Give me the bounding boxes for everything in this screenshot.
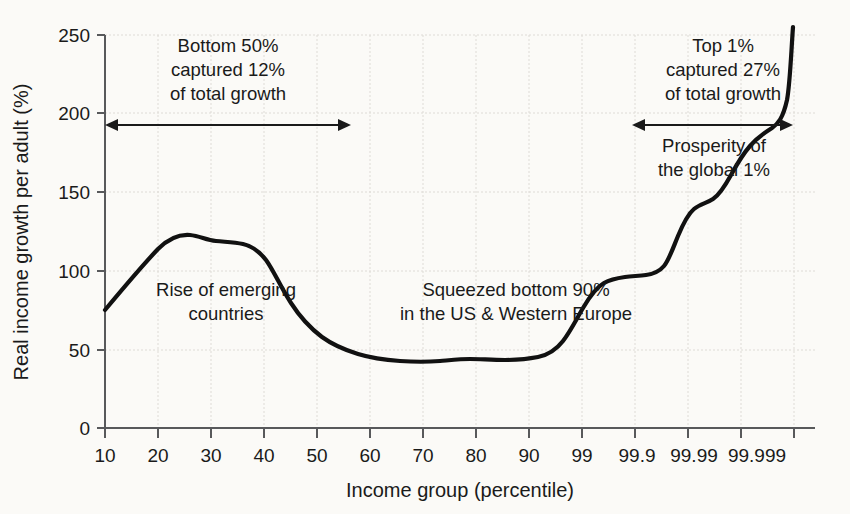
x-tick-label: 60 [359,445,380,466]
x-tick-label: 80 [465,445,486,466]
annotation-line: of total growth [665,83,781,104]
x-axis-title: Income group (percentile) [346,479,574,501]
x-tick-label: 70 [412,445,433,466]
x-tick-label: 90 [518,445,539,466]
y-tick-label: 0 [79,418,90,439]
x-tick-label: 99.999 [728,445,786,466]
y-tick-label: 50 [69,340,90,361]
x-tick-label: 40 [253,445,274,466]
annotation-line: countries [188,303,263,324]
annotation-line: captured 27% [666,59,780,80]
annotation-line: in the US & Western Europe [400,303,632,324]
annotation-bottom-50: Bottom 50% captured 12% of total growth [170,35,286,104]
y-axis-title: Real income growth per adult (%) [10,84,32,381]
y-tick-label: 200 [58,103,90,124]
x-tick-label: 30 [200,445,221,466]
annotation-line: Rise of emerging [156,279,296,300]
annotation-line: Squeezed bottom 90% [422,279,609,300]
x-tick-label: 20 [147,445,168,466]
annotation-line: Prosperity of [662,135,767,156]
annotation-line: of total growth [170,83,286,104]
x-tick-label: 10 [94,445,115,466]
annotation-line: captured 12% [171,59,285,80]
y-tick-label: 250 [58,25,90,46]
x-tick-label: 99.99 [670,445,718,466]
x-tick-label: 99.9 [619,445,656,466]
x-tick-label: 99 [571,445,592,466]
y-tick-label: 150 [58,182,90,203]
chart-figure: 250 200 150 100 50 0 10 20 30 40 50 60 7… [0,0,850,514]
x-tick-label: 50 [306,445,327,466]
annotation-line: the global 1% [658,159,770,180]
y-tick-label: 100 [58,261,90,282]
elephant-curve-chart: 250 200 150 100 50 0 10 20 30 40 50 60 7… [0,0,850,514]
annotation-line: Top 1% [692,35,754,56]
annotation-line: Bottom 50% [178,35,279,56]
